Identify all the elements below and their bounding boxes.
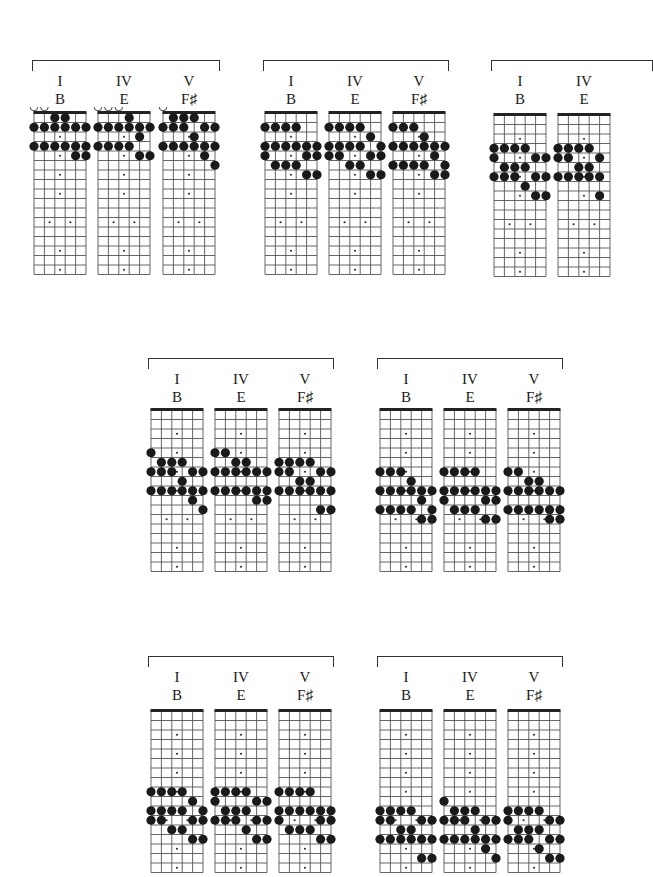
inlay-marker	[69, 221, 71, 223]
finger-dot	[439, 467, 448, 476]
inlay-marker	[408, 221, 410, 223]
finger-dot	[231, 787, 240, 796]
finger-dot	[231, 816, 240, 825]
finger-dot	[71, 123, 80, 132]
finger-dot	[450, 505, 459, 514]
finger-dot	[285, 787, 294, 796]
nut	[393, 111, 446, 114]
finger-dot	[324, 142, 333, 151]
finger-dot	[481, 844, 490, 853]
finger-dot	[324, 123, 333, 132]
finger-dot	[345, 161, 354, 170]
finger-dot	[514, 505, 523, 514]
finger-dot	[427, 854, 436, 863]
inlay-marker	[304, 753, 306, 755]
finger-dot	[376, 151, 385, 160]
inlay-marker	[469, 452, 471, 454]
finger-dot	[386, 505, 395, 514]
finger-dot	[262, 835, 271, 844]
inlay-marker	[290, 250, 292, 252]
finger-dot	[366, 132, 375, 141]
finger-dot	[489, 144, 498, 153]
finger-dot	[595, 153, 604, 162]
finger-dot	[71, 142, 80, 151]
finger-dot	[252, 797, 261, 806]
finger-dot	[481, 835, 490, 844]
finger-dot	[553, 144, 562, 153]
inlay-marker	[523, 518, 525, 520]
finger-dot	[292, 161, 301, 170]
finger-dot	[396, 486, 405, 495]
finger-dot	[399, 123, 408, 132]
finger-dot	[178, 458, 187, 467]
finger-dot	[324, 151, 333, 160]
inlay-marker	[459, 518, 461, 520]
nut	[329, 111, 382, 114]
finger-dot	[210, 816, 219, 825]
finger-dot	[491, 515, 500, 524]
finger-dot	[386, 467, 395, 476]
inlay-marker	[304, 547, 306, 549]
finger-dot	[376, 170, 385, 179]
chord-key-label: F♯	[275, 688, 335, 703]
finger-dot	[471, 467, 480, 476]
finger-dot	[510, 163, 519, 172]
finger-dot	[345, 123, 354, 132]
finger-dot	[167, 787, 176, 796]
inlay-marker	[290, 193, 292, 195]
nut	[444, 408, 497, 411]
finger-dot	[221, 486, 230, 495]
inlay-marker	[133, 221, 135, 223]
chord-degree-label: I	[376, 372, 436, 387]
chord-degree-label: IV	[211, 372, 271, 387]
finger-dot	[179, 142, 188, 151]
fretboard-diagram	[502, 705, 566, 877]
inlay-marker	[533, 734, 535, 736]
inlay-marker	[593, 223, 595, 225]
chord-degree-label: V	[275, 372, 335, 387]
finger-dot	[356, 161, 365, 170]
group-bracket	[263, 60, 449, 71]
finger-dot	[167, 467, 176, 476]
finger-dot	[146, 806, 155, 815]
finger-dot	[316, 505, 325, 514]
finger-dot	[326, 467, 335, 476]
inlay-marker	[176, 566, 178, 568]
inlay-marker	[123, 155, 125, 157]
finger-dot	[450, 486, 459, 495]
finger-dot	[427, 486, 436, 495]
finger-dot	[439, 816, 448, 825]
inlay-marker	[178, 221, 180, 223]
inlay-marker	[469, 433, 471, 435]
inlay-marker	[176, 452, 178, 454]
finger-dot	[262, 816, 271, 825]
finger-dot	[396, 505, 405, 514]
finger-dot	[281, 161, 290, 170]
chord-degree-label: I	[147, 670, 207, 685]
nut	[265, 111, 318, 114]
finger-dot	[555, 816, 564, 825]
finger-dot	[295, 787, 304, 796]
finger-dot	[312, 142, 321, 151]
nut	[279, 408, 332, 411]
finger-dot	[221, 787, 230, 796]
finger-dot	[420, 132, 429, 141]
finger-dot	[210, 161, 219, 170]
finger-dot	[585, 163, 594, 172]
inlay-marker	[186, 518, 188, 520]
finger-dot	[295, 477, 304, 486]
open-string-marker	[105, 107, 113, 111]
finger-dot	[564, 153, 573, 162]
finger-dot	[545, 515, 554, 524]
finger-dot	[169, 142, 178, 151]
inlay-marker	[123, 193, 125, 195]
finger-dot	[460, 806, 469, 815]
group-bracket	[148, 358, 334, 369]
finger-dot	[114, 142, 123, 151]
finger-dot	[190, 142, 199, 151]
inlay-marker	[519, 252, 521, 254]
finger-dot	[125, 142, 134, 151]
chord-key-label: B	[30, 92, 90, 107]
finger-dot	[274, 458, 283, 467]
chord-degree-label: V	[275, 670, 335, 685]
